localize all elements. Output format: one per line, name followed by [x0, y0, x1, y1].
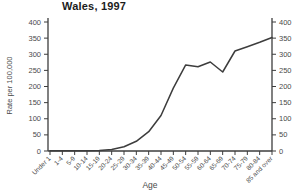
- y-tick-label-right: 150: [279, 98, 292, 107]
- y-tick-label-left: 400: [28, 18, 41, 27]
- y-tick-label-right: 300: [279, 50, 292, 59]
- y-tick-label-left: 300: [28, 50, 41, 59]
- y-tick-label-right: 100: [279, 114, 292, 123]
- y-tick-label-right: 350: [279, 34, 292, 43]
- chart-plot-svg: 0050501001001501502002002502503003003503…: [0, 0, 301, 194]
- y-tick-label-left: 200: [28, 82, 41, 91]
- y-tick-label-left: 0: [37, 147, 41, 156]
- y-tick-label-right: 0: [279, 147, 283, 156]
- y-tick-label-right: 400: [279, 18, 292, 27]
- y-tick-label-left: 350: [28, 34, 41, 43]
- data-line: [50, 38, 272, 151]
- y-tick-label-right: 50: [279, 130, 287, 139]
- y-tick-label-left: 100: [28, 114, 41, 123]
- x-tick-label: 1-4: [52, 154, 64, 166]
- y-tick-label-left: 50: [33, 130, 41, 139]
- chart-container: Wales, 1997 0050501001001501502002002502…: [0, 0, 301, 194]
- y-tick-label-left: 250: [28, 66, 41, 75]
- x-tick-label: Under 1: [30, 154, 52, 176]
- y-axis-label: Rate per 100,000: [5, 46, 14, 126]
- y-tick-label-right: 250: [279, 66, 292, 75]
- x-axis-label: Age: [110, 180, 190, 190]
- y-tick-label-right: 200: [279, 82, 292, 91]
- y-tick-label-left: 150: [28, 98, 41, 107]
